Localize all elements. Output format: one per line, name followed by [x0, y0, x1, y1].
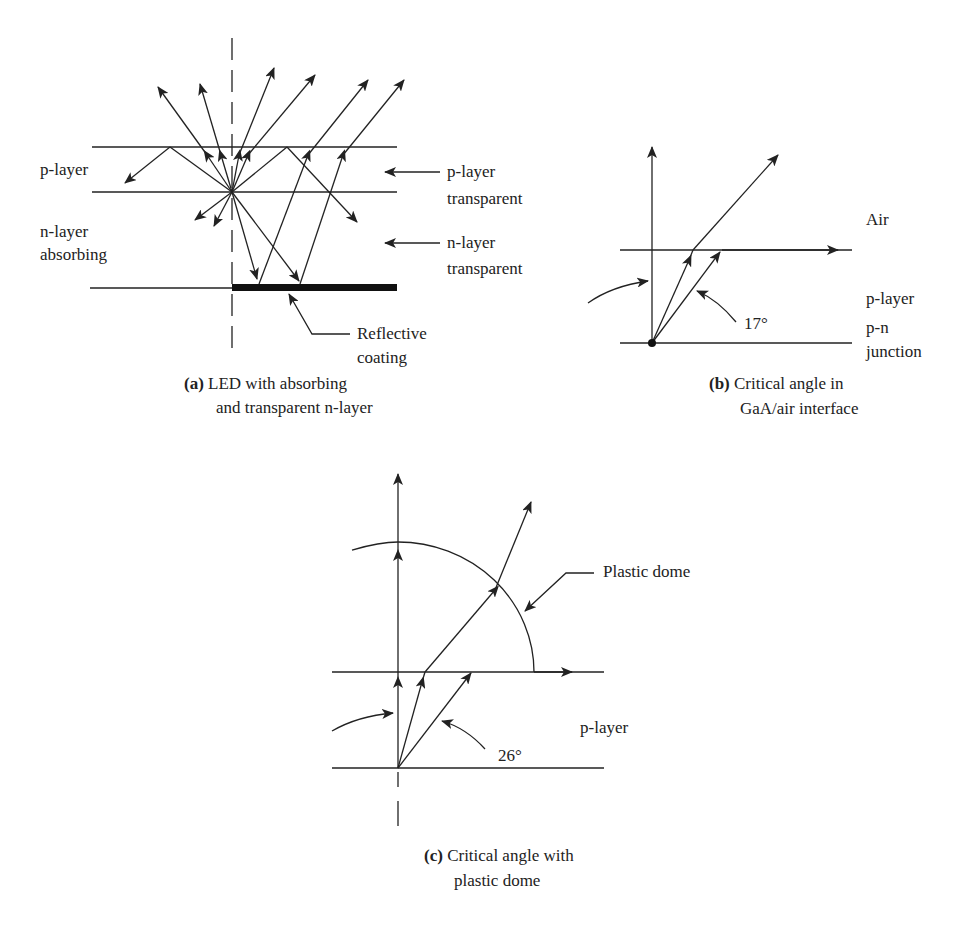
caption-c-line2: plastic dome [454, 871, 540, 891]
caption-c-text: Critical angle with [447, 846, 574, 865]
caption-b-tag: (b) [709, 374, 730, 393]
label-p-layer-c: p-layer [580, 718, 628, 738]
label-plastic-dome: Plastic dome [603, 562, 690, 582]
downward-rays [195, 192, 299, 281]
panel-c-diagram [332, 474, 604, 826]
label-pn: p-n [866, 318, 889, 338]
label-p-transparent-1: p-layer [447, 162, 495, 182]
label-air: Air [866, 210, 889, 230]
label-coating: coating [357, 348, 407, 368]
caption-a-line2: and transparent n-layer [216, 398, 373, 418]
caption-b-line1: (b) Critical angle in [709, 374, 844, 394]
label-junction: junction [866, 342, 922, 362]
angle-curved-pointer [442, 721, 485, 749]
label-absorbing: absorbing [40, 245, 107, 265]
label-n-transparent-2: transparent [447, 259, 523, 279]
label-n-layer: n-layer [40, 222, 88, 242]
reflected-rays [125, 147, 357, 222]
label-p-transparent-2: transparent [447, 189, 523, 209]
escaping-rays [158, 68, 315, 192]
caption-a-tag: (a) [184, 374, 204, 393]
plastic-dome-pointer [525, 573, 594, 611]
critical-ray [398, 673, 471, 768]
caption-c-tag: (c) [424, 846, 443, 865]
source-point [648, 339, 656, 347]
caption-b-text: Critical angle in [734, 374, 844, 393]
label-reflective: Reflective [357, 324, 427, 344]
caption-b-line2: GaA/air interface [740, 399, 858, 419]
figure-canvas [0, 0, 965, 930]
reflective-coating [232, 284, 397, 291]
caption-c-line1: (c) Critical angle with [424, 846, 574, 866]
panel-b-diagram [588, 147, 852, 347]
caption-a-text: LED with absorbing [208, 374, 347, 393]
label-n-transparent-1: n-layer [447, 233, 495, 253]
panel-a-diagram [90, 38, 440, 355]
label-p-layer: p-layer [40, 160, 88, 180]
caption-a-line1: (a) LED with absorbing [184, 374, 347, 394]
label-p-layer-b: p-layer [866, 289, 914, 309]
angle-curved-pointer [697, 291, 736, 322]
left-curved-pointer [332, 713, 393, 731]
refracted-ray [693, 155, 778, 250]
reflective-pointer [289, 294, 350, 334]
label-angle-17: 17° [744, 314, 768, 334]
dome-exit-ray [495, 502, 531, 590]
left-curved-pointer [588, 281, 648, 303]
label-angle-26: 26° [498, 746, 522, 766]
coating-reflected-rays [259, 80, 404, 284]
